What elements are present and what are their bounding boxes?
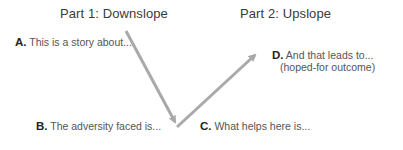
step-b-text: The adversity faced is... (50, 120, 161, 132)
step-b: B. The adversity faced is... (36, 120, 161, 132)
step-d: D. And that leads to... (hoped-for outco… (272, 49, 375, 73)
step-c-letter: C. (200, 120, 212, 132)
step-d-text: And that leads to... (286, 49, 374, 61)
step-d-letter: D. (272, 49, 284, 61)
step-a-text: This is a story about... (29, 36, 132, 48)
step-a: A. This is a story about... (15, 36, 132, 48)
step-b-letter: B. (36, 120, 48, 132)
upslope-arrow (177, 55, 255, 127)
step-c: C. What helps here is... (200, 120, 310, 132)
step-c-text: What helps here is... (214, 120, 310, 132)
step-a-letter: A. (15, 36, 27, 48)
step-d-subtext: (hoped-for outcome) (272, 61, 375, 73)
downslope-arrow (126, 31, 175, 122)
